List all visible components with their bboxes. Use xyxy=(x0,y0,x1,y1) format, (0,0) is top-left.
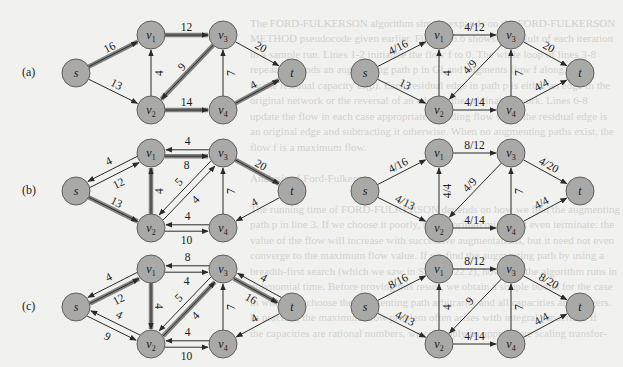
edge-label: 4 xyxy=(185,326,191,338)
edge-label: 4 xyxy=(189,309,202,322)
node-v3: v3 xyxy=(209,21,237,49)
edge-v3-t: 20 xyxy=(523,39,567,66)
edge-label: 8/12 xyxy=(464,139,485,151)
edge-v2-v1: 4 xyxy=(439,50,453,96)
edge-label: 8/12 xyxy=(464,255,485,267)
edge-label: 4/12 xyxy=(464,21,485,33)
edge-v4-t: 4/4 xyxy=(523,194,566,222)
ford-fulkerson-figure: (a)(b)(c) 16134129147204sv1v2v3v4t124134… xyxy=(0,0,623,367)
edge-label: 12 xyxy=(111,175,127,191)
edge-label: 4/14 xyxy=(464,214,485,226)
edge-label: 9 xyxy=(102,330,113,343)
node-v2: v2 xyxy=(137,96,165,124)
panel-label: (b) xyxy=(22,183,36,197)
edge-v2-v4: 10 xyxy=(165,347,208,362)
edge-v2-v4: 4/14 xyxy=(453,214,496,228)
edge-label: 4/13 xyxy=(393,308,417,328)
edge-label: 14 xyxy=(181,96,193,108)
edge-v3-t: 20 xyxy=(235,157,279,184)
edge-v1-v2: 4 xyxy=(151,283,165,329)
edge-v2-v4: 4/14 xyxy=(453,96,496,110)
edge-v4-v3: 7 xyxy=(223,284,237,330)
node-v4: v4 xyxy=(497,330,525,358)
node-v3: v3 xyxy=(209,255,237,283)
node-label: s xyxy=(363,300,368,314)
edge-v1-v3: 8/12 xyxy=(453,255,496,269)
node-s: s xyxy=(351,59,379,87)
edge-t-v4: 4 xyxy=(236,195,279,220)
edge-v4-v3: 7 xyxy=(511,168,525,214)
node-v2: v2 xyxy=(137,330,165,358)
edge-label: 4 xyxy=(114,308,125,321)
panel-label: (a) xyxy=(22,65,35,79)
edge-v4-v3: 7 xyxy=(223,50,237,96)
edge-label: 9 xyxy=(463,294,476,307)
node-v1: v1 xyxy=(137,21,165,49)
edge-v1-v3: 4 xyxy=(165,272,208,287)
edge-label: 4 xyxy=(249,311,260,324)
edge-v3-v2: 9 xyxy=(161,45,213,99)
panel-label: (c) xyxy=(22,299,35,313)
edge-v2-v4: 4/14 xyxy=(453,330,496,344)
node-v4: v4 xyxy=(209,214,237,242)
edge-s-v2: 13 xyxy=(89,76,138,103)
node-v1: v1 xyxy=(137,139,165,167)
edge-label: 10 xyxy=(181,350,193,362)
edge-v1-v3: 4/12 xyxy=(453,21,496,35)
edge-v2-v1: 4 xyxy=(151,168,165,214)
edge-label: 4/4 xyxy=(441,183,453,198)
node-label: s xyxy=(74,184,79,198)
edge-v4-t: 4/4 xyxy=(523,310,566,338)
node-v1: v1 xyxy=(137,255,165,283)
panel-labels: (a)(b)(c) xyxy=(22,65,36,313)
node-s: s xyxy=(351,177,379,205)
node-t: t xyxy=(566,59,594,87)
flow-graph: 4/161344/124/94/147204/4sv1v2v3v4t xyxy=(351,21,594,124)
edge-label: 4/4 xyxy=(532,310,551,328)
residual-graph: 12413484451047204sv1v2v3v4t xyxy=(62,135,306,246)
edge-label: 4 xyxy=(153,303,165,309)
node-s: s xyxy=(351,293,379,321)
edge-v2-v4: 14 xyxy=(165,96,208,110)
edge-v4-t: 4/4 xyxy=(523,76,566,104)
edge-label: 7 xyxy=(513,188,525,194)
edge-v3-v1: 8 xyxy=(166,251,209,266)
edge-s-v2: 4/13 xyxy=(378,192,426,221)
edge-label: 4 xyxy=(189,193,202,206)
edge-label: 7 xyxy=(225,70,237,76)
node-v4: v4 xyxy=(497,96,525,124)
edge-label: 4/20 xyxy=(537,155,561,175)
edge-label: 4 xyxy=(185,135,191,147)
node-v3: v3 xyxy=(497,21,525,49)
edge-v3-v1: 4 xyxy=(166,135,209,150)
edge-label: 4/14 xyxy=(464,96,485,108)
node-t: t xyxy=(278,177,306,205)
edge-t-v4: 4 xyxy=(236,311,279,336)
edge-v3-t: 4/20 xyxy=(523,155,567,184)
edge-label: 4/9 xyxy=(460,175,479,194)
edge-label: 4 xyxy=(441,70,453,76)
edge-v4-v3: 7 xyxy=(511,50,525,96)
edge-label: 4 xyxy=(153,70,165,76)
edge-label: 8/16 xyxy=(386,271,410,291)
node-s: s xyxy=(62,59,90,87)
node-v4: v4 xyxy=(497,214,525,242)
edge-label: 4/4 xyxy=(532,194,551,212)
node-label: s xyxy=(363,184,368,198)
node-s: s xyxy=(62,177,90,205)
edge-label: 5 xyxy=(172,175,185,188)
edge-s-v2: 13 xyxy=(89,194,138,221)
edge-label: 4 xyxy=(153,188,165,194)
edge-label: 4 xyxy=(441,304,453,310)
edge-s-v2: 4/13 xyxy=(378,308,426,337)
edge-v1-v3: 12 xyxy=(165,21,208,35)
edge-v1-v3: 8 xyxy=(165,156,208,171)
node-v3: v3 xyxy=(497,255,525,283)
edge-label: 4 xyxy=(185,210,191,222)
edge-label: 5 xyxy=(172,291,185,304)
node-v2: v2 xyxy=(425,96,453,124)
edge-v3-t: 20 xyxy=(235,39,279,66)
edge-label: 7 xyxy=(225,188,237,194)
edge-s-v1: 4/16 xyxy=(377,37,425,67)
edge-label: 8 xyxy=(184,159,190,171)
